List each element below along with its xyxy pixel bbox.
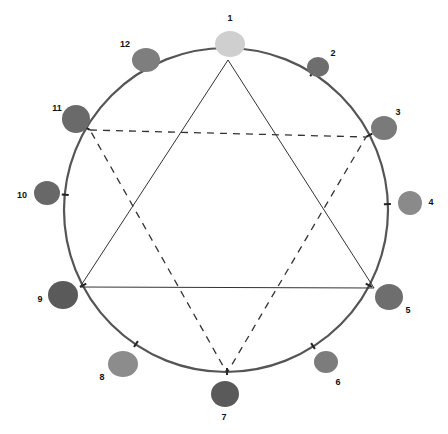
position-label-2: 2 (330, 49, 335, 58)
color-swatch-4 (398, 191, 422, 215)
wheel-circle (64, 48, 388, 372)
color-swatch-1 (215, 31, 245, 57)
color-swatch-11 (62, 105, 90, 133)
color-swatch-5 (375, 284, 403, 310)
color-swatches (34, 31, 422, 407)
color-swatch-2 (307, 57, 329, 77)
color-swatch-3 (371, 116, 397, 140)
color-wheel-diagram (0, 0, 448, 434)
position-label-12: 12 (120, 40, 130, 49)
position-label-6: 6 (335, 378, 340, 387)
color-swatch-8 (108, 351, 138, 377)
position-label-1: 1 (227, 14, 232, 23)
color-swatch-9 (48, 281, 78, 309)
position-label-7: 7 (221, 413, 226, 422)
position-label-9: 9 (37, 295, 42, 304)
color-swatch-6 (314, 351, 338, 373)
position-label-11: 11 (52, 104, 62, 113)
position-label-10: 10 (17, 191, 27, 200)
dashed-triangle (90, 130, 366, 373)
tick-mark-10 (62, 194, 69, 195)
solid-triangle (80, 60, 374, 288)
position-label-3: 3 (395, 108, 400, 117)
position-label-8: 8 (99, 373, 104, 382)
position-label-5: 5 (405, 306, 410, 315)
color-swatch-10 (34, 181, 60, 205)
color-swatch-7 (211, 381, 239, 407)
position-label-4: 4 (428, 198, 433, 207)
color-swatch-12 (132, 48, 160, 72)
